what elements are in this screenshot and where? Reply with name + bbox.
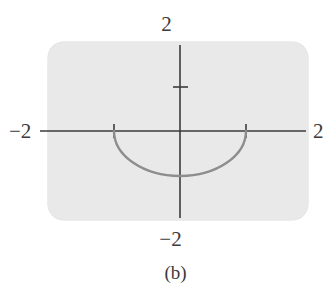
y-axis-max-label-text: 2 [161,12,172,36]
y-axis-min-label-text: −2 [159,227,181,251]
y-axis-min-label: −2 [0,229,333,250]
y-axis-max-label: 2 [0,14,333,35]
figure-caption-text: (b) [164,262,186,283]
figure-caption: (b) [0,262,333,284]
x-axis-min-label: −2 [9,121,31,142]
x-axis-max-label: 2 [313,121,324,142]
figure-container: 2 −2 −2 2 (b) [0,0,333,292]
